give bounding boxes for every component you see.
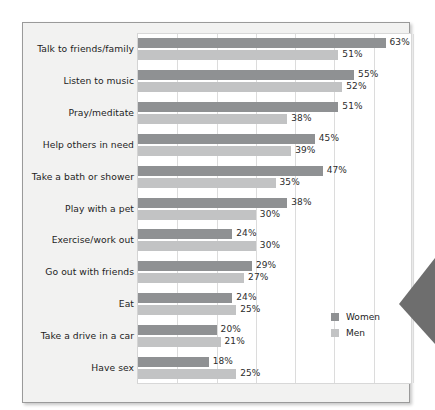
category-label: Have sex [26, 362, 134, 373]
category-label: Help others in need [26, 139, 134, 150]
bar-women [138, 229, 232, 239]
category-label: Eat [26, 298, 134, 309]
bar-group: 24%30% [138, 225, 411, 257]
bar-value-label: 18% [213, 356, 233, 366]
bar-group: 29%27% [138, 257, 411, 289]
bar-group: 45%39% [138, 130, 411, 162]
bar-group: 47%35% [138, 162, 411, 194]
bar-women [138, 293, 232, 303]
bar-men [138, 369, 236, 379]
bar-women [138, 38, 386, 48]
bar-women [138, 261, 252, 271]
bar-men [138, 82, 342, 92]
bar-men [138, 146, 291, 156]
bar-women [138, 166, 323, 176]
legend-label: Men [346, 328, 365, 338]
legend-swatch [331, 313, 339, 321]
bar-men [138, 305, 236, 315]
category-label-column: Talk to friends/familyListen to musicPra… [23, 33, 134, 384]
bar-value-label: 25% [240, 304, 260, 314]
bar-men [138, 178, 276, 188]
bar-men [138, 241, 256, 251]
bar-value-label: 38% [291, 113, 311, 123]
legend-label: Women [346, 312, 380, 322]
category-label: Go out with friends [26, 266, 134, 277]
callout-arrow-icon [399, 258, 435, 344]
bar-value-label: 30% [260, 209, 280, 219]
bar-value-label: 24% [236, 228, 256, 238]
bar-group: 63%51% [138, 34, 411, 66]
bar-men [138, 210, 256, 220]
bar-value-label: 30% [260, 240, 280, 250]
bar-men [138, 273, 244, 283]
bar-women [138, 357, 209, 367]
bar-value-label: 51% [342, 49, 362, 59]
bar-value-label: 35% [280, 177, 300, 187]
bar-value-label: 51% [342, 101, 362, 111]
bar-value-label: 24% [236, 292, 256, 302]
category-label: Play with a pet [26, 203, 134, 214]
bar-value-label: 55% [358, 69, 378, 79]
bar-group: 38%30% [138, 194, 411, 226]
legend-swatch [331, 329, 339, 337]
bar-value-label: 20% [221, 324, 241, 334]
bar-value-label: 25% [240, 368, 260, 378]
category-label: Take a bath or shower [26, 171, 134, 182]
chart-figure: Talk to friends/familyListen to musicPra… [0, 0, 435, 410]
bar-women [138, 198, 287, 208]
bar-women [138, 102, 338, 112]
bar-men [138, 50, 338, 60]
category-label: Exercise/work out [26, 234, 134, 245]
bar-value-label: 45% [319, 133, 339, 143]
bar-women [138, 325, 217, 335]
bar-women [138, 70, 354, 80]
bar-value-label: 39% [295, 145, 315, 155]
bar-value-label: 63% [390, 37, 410, 47]
bar-group: 18%25% [138, 353, 411, 385]
category-label: Talk to friends/family [26, 43, 134, 54]
bar-value-label: 38% [291, 197, 311, 207]
category-label: Take a drive in a car [26, 330, 134, 341]
bar-value-label: 21% [225, 336, 245, 346]
bar-women [138, 134, 315, 144]
bar-value-label: 52% [346, 81, 366, 91]
chart-panel: Talk to friends/familyListen to musicPra… [22, 22, 410, 403]
bar-group: 51%38% [138, 98, 411, 130]
bar-value-label: 29% [256, 260, 276, 270]
bar-value-label: 47% [327, 165, 347, 175]
bar-men [138, 114, 287, 124]
plot-area: 63%51%55%52%51%38%45%39%47%35%38%30%24%3… [137, 33, 412, 384]
bar-group: 55%52% [138, 66, 411, 98]
bar-men [138, 337, 221, 347]
bar-value-label: 27% [248, 272, 268, 282]
category-label: Listen to music [26, 75, 134, 86]
category-label: Pray/meditate [26, 107, 134, 118]
